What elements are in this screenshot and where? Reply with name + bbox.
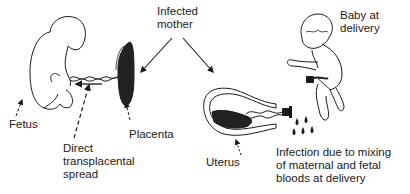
cord-clamp-icon [282,106,292,118]
label-line: Baby at [340,9,380,22]
delivery-infection-label: Infection due to mixing of maternal and … [276,146,391,185]
direct-spread-label: Direct transplacental spread [63,142,135,181]
blood-drops-icon [293,116,314,135]
direct-spread-pointer [74,85,89,138]
label-line: delivery [340,22,380,35]
baby-label: Baby at delivery [340,9,380,35]
placenta-illustration [116,42,134,106]
label-line: spread [63,168,135,181]
uterus-label: Uterus [206,156,240,169]
infected-mother-label: Infected mother [157,5,198,31]
label-line: transplacental [63,155,135,168]
label-line: bloods at delivery [276,172,391,185]
fetus-pointer [16,100,22,116]
label-line: of maternal and fetal [276,159,391,172]
transmission-diagram: Infected mother Fetus Placenta Direct tr… [0,0,410,194]
mother-to-placenta-arrow [141,38,172,72]
label-line: Infection due to mixing [276,146,391,159]
label-line: Infected [157,5,198,18]
umbilical-cord-fetus [70,76,118,81]
baby-cord-clamp-icon [306,76,328,83]
mother-to-uterus-arrow [183,38,213,72]
baby-illustration [288,14,345,120]
label-line: Direct [63,142,135,155]
placenta-label: Placenta [129,128,174,141]
uterus-illustration [204,88,282,135]
fetus-label: Fetus [9,118,38,131]
label-line: mother [157,18,198,31]
fetus-illustration [30,17,85,110]
uterus-pointer [236,140,241,155]
